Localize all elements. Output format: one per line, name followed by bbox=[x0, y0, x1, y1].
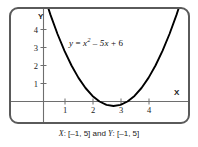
equation-annotation: y = x2 – 5x + 6 bbox=[69, 38, 123, 48]
plot-area bbox=[0, 0, 198, 147]
y-tick-label-3: 3 bbox=[28, 44, 38, 53]
caption-x-range: : [–1, 5] and bbox=[64, 129, 108, 138]
equation-linear-term: 5x bbox=[100, 38, 109, 48]
x-tick-label-3: 3 bbox=[115, 106, 127, 115]
y-tick-label-2: 2 bbox=[28, 62, 38, 71]
x-tick-label-1: 1 bbox=[59, 106, 71, 115]
y-tick-label-4: 4 bbox=[28, 26, 38, 35]
equation-constant: 6 bbox=[118, 38, 123, 48]
range-caption: X: [–1, 5] and Y: [–1, 5] bbox=[0, 129, 198, 138]
equation-lhs: y bbox=[69, 38, 73, 48]
y-axis-label: Y bbox=[38, 13, 43, 21]
y-tick-label-1: 1 bbox=[28, 80, 38, 89]
caption-y-range: : [–1, 5] bbox=[113, 129, 140, 138]
equation-equals: = bbox=[75, 38, 80, 48]
equation-minus-operator: – bbox=[93, 38, 98, 48]
x-tick-label-4: 4 bbox=[143, 106, 155, 115]
equation-exponent: 2 bbox=[87, 36, 90, 43]
x-tick-label-2: 2 bbox=[87, 106, 99, 115]
equation-plus-operator: + bbox=[111, 38, 116, 48]
graphing-calculator-figure: Y X 1 2 3 4 1 2 3 4 y = x2 – 5x + 6 X: [… bbox=[0, 0, 198, 147]
x-axis-label: X bbox=[174, 89, 179, 97]
